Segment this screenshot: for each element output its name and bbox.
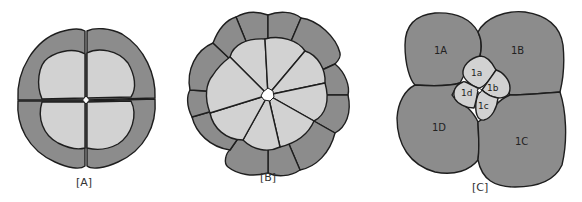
- panel-b-caption: [B]: [260, 171, 276, 184]
- label-1D: 1D: [432, 122, 446, 133]
- panel-b: [188, 12, 350, 175]
- label-1B: 1B: [511, 45, 524, 56]
- label-1a: 1a: [471, 68, 482, 78]
- panel-c-caption: [C]: [472, 181, 488, 194]
- panel-a: [A]: [18, 29, 155, 189]
- panel-a-caption: [A]: [76, 176, 92, 189]
- label-1c: 1c: [478, 101, 489, 111]
- label-1C: 1C: [515, 136, 528, 147]
- label-1d: 1d: [461, 88, 472, 98]
- panel-c: 1A 1B 1C 1D 1a 1b 1c 1d [C]: [397, 12, 566, 194]
- label-1b: 1b: [487, 83, 499, 93]
- label-1A: 1A: [434, 45, 447, 56]
- cleavage-diagram: [A] [B]: [0, 0, 582, 202]
